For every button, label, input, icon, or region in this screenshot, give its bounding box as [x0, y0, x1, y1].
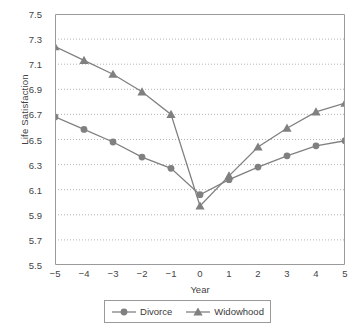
data-point-circle — [139, 154, 146, 161]
gridlines — [55, 14, 345, 265]
data-point-circle — [284, 152, 291, 159]
x-axis-tick-label: −3 — [98, 268, 128, 279]
y-axis-tick-label: 6.9 — [8, 84, 42, 95]
data-point-circle — [110, 139, 117, 146]
x-axis-tick-label: 5 — [330, 268, 360, 279]
x-axis-tick-label: −5 — [40, 268, 70, 279]
data-point-triangle — [253, 142, 262, 150]
y-axis-tick-label: 5.9 — [8, 209, 42, 220]
x-axis-tick-label: 0 — [185, 268, 215, 279]
series-divorce — [55, 114, 345, 199]
x-axis-tick-label: −1 — [156, 268, 186, 279]
series-line — [55, 117, 345, 195]
data-point-circle — [81, 126, 88, 133]
y-axis-tick-label: 6.7 — [8, 109, 42, 120]
plot-svg — [55, 14, 345, 265]
life-satisfaction-line-chart: Life Satisfaction 7.57.37.16.96.76.56.36… — [0, 0, 364, 330]
x-axis-tick-label: 3 — [272, 268, 302, 279]
series-layer — [55, 42, 345, 210]
x-axis-tick-label: −2 — [127, 268, 157, 279]
legend-item-divorce: Divorce — [111, 306, 172, 318]
x-axis-tick-label: 1 — [214, 268, 244, 279]
data-point-triangle — [137, 87, 146, 95]
legend-item-widowhood: Widowhood — [185, 306, 264, 318]
y-axis-tick-label: 6.1 — [8, 184, 42, 195]
y-axis-tick-label: 6.5 — [8, 134, 42, 145]
series-widowhood — [55, 42, 345, 210]
data-point-triangle — [108, 70, 117, 78]
y-axis-tick-label: 5.5 — [8, 260, 42, 271]
y-axis-tick-label: 7.1 — [8, 59, 42, 70]
x-axis-tick-label: 2 — [243, 268, 273, 279]
data-point-triangle — [166, 110, 175, 118]
x-axis-tick-label: 4 — [301, 268, 331, 279]
series-line — [55, 47, 345, 206]
x-axis-title: Year — [55, 284, 345, 295]
y-axis-tick-label: 5.7 — [8, 234, 42, 245]
plot-area — [55, 14, 345, 265]
data-point-triangle — [79, 56, 88, 64]
triangle-marker-icon — [185, 306, 211, 318]
data-point-triangle — [282, 124, 291, 132]
data-point-circle — [168, 165, 175, 172]
y-axis-tick-label: 7.5 — [8, 9, 42, 20]
data-point-circle — [313, 142, 320, 149]
legend-label: Divorce — [140, 306, 172, 317]
x-axis-tick-label: −4 — [69, 268, 99, 279]
legend-label: Widowhood — [214, 306, 264, 317]
y-axis-tick-label: 6.3 — [8, 159, 42, 170]
chart-legend: DivorceWidowhood — [104, 300, 271, 323]
data-point-circle — [255, 164, 262, 171]
circle-marker-icon — [111, 306, 137, 318]
y-axis-tick-label: 7.3 — [8, 34, 42, 45]
